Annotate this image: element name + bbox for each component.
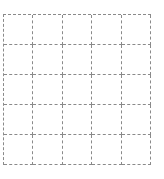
grid-cell xyxy=(63,75,92,105)
grid-cell xyxy=(4,75,33,105)
grid-cell xyxy=(122,15,151,45)
grid-cell xyxy=(33,75,62,105)
grid-cell xyxy=(122,135,151,165)
grid-cell xyxy=(4,135,33,165)
grid-cell xyxy=(63,45,92,75)
grid-cell xyxy=(4,105,33,135)
grid-cell xyxy=(92,15,121,45)
grid-cell xyxy=(33,45,62,75)
grid-cell xyxy=(92,75,121,105)
grid-cell xyxy=(122,45,151,75)
grid-cell xyxy=(63,135,92,165)
grid-cell xyxy=(92,105,121,135)
grid-cell xyxy=(4,15,33,45)
grid-cell xyxy=(122,105,151,135)
grid-cell xyxy=(92,135,121,165)
grid-cell xyxy=(33,15,62,45)
dashed-grid xyxy=(3,14,151,165)
grid-cell xyxy=(92,45,121,75)
grid-cell xyxy=(63,105,92,135)
grid-cell xyxy=(33,105,62,135)
grid-cell xyxy=(122,75,151,105)
grid-cell xyxy=(4,45,33,75)
grid-cell xyxy=(33,135,62,165)
grid-cell xyxy=(63,15,92,45)
